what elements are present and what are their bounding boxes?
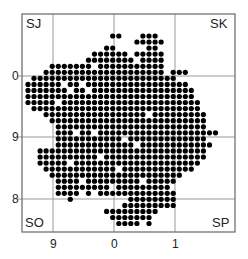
record-dot [31,100,36,105]
record-dot [110,130,115,135]
record-dot [86,118,91,123]
distribution-map: SJ SK SO SP 0 9 8 9 0 1 [0,0,248,259]
record-dot [153,179,158,184]
record-dot [38,94,43,99]
record-dot [177,100,182,105]
record-dot [146,46,151,51]
record-dot [165,88,170,93]
record-dot [38,100,43,105]
record-dot [159,82,164,87]
record-dot [98,142,103,147]
record-dot [159,39,164,44]
record-dot [134,70,139,75]
record-dot [116,88,121,93]
record-dot [171,167,176,172]
record-dot [128,130,133,135]
record-dot [153,88,158,93]
record-dot [177,173,182,178]
record-dot [159,154,164,159]
record-dot [122,167,127,172]
record-dot [171,203,176,208]
record-dot [128,88,133,93]
record-dot [104,142,109,147]
grid-square-label-so: SO [25,215,44,230]
record-dot [116,100,121,105]
record-dot [128,167,133,172]
record-dot [92,70,97,75]
record-dot [56,106,61,111]
record-dot [134,185,139,190]
record-dots [25,33,218,226]
record-dot [86,185,91,190]
record-dot [44,82,49,87]
record-dot [177,82,182,87]
record-dot [165,130,170,135]
record-dot [153,161,158,166]
record-dot [165,185,170,190]
record-dot [86,173,91,178]
record-dot [86,94,91,99]
record-dot [159,112,164,117]
record-dot [50,88,55,93]
record-dot [140,94,145,99]
record-dot [189,100,194,105]
record-dot [177,167,182,172]
record-dot [201,154,206,159]
record-dot [183,130,188,135]
record-dot [80,112,85,117]
record-dot [38,76,43,81]
record-dot [146,52,151,57]
record-dot [134,82,139,87]
record-dot [74,142,79,147]
record-dot [171,191,176,196]
record-dot [128,197,133,202]
record-dot [171,118,176,123]
record-dot [86,161,91,166]
record-dot [104,148,109,153]
record-dot [177,142,182,147]
record-dot [128,203,133,208]
record-dot [25,94,30,99]
record-dot [44,112,49,117]
record-dot [50,112,55,117]
record-dot [116,52,121,57]
record-dot [122,100,127,105]
record-dot [122,88,127,93]
record-dot [74,112,79,117]
record-dot [38,154,43,159]
record-dot [92,185,97,190]
record-dot [74,124,79,129]
record-dot [62,154,67,159]
record-dot [122,94,127,99]
record-dot [183,154,188,159]
record-dot [122,58,127,63]
record-dot [86,191,91,196]
record-dot [189,161,194,166]
record-dot [183,70,188,75]
record-dot [171,70,176,75]
record-dot [56,130,61,135]
record-dot [56,70,61,75]
record-dot [110,76,115,81]
record-dot [189,94,194,99]
record-dot [165,191,170,196]
record-dot [116,124,121,129]
record-dot [159,173,164,178]
record-dot [140,130,145,135]
record-dot [171,130,176,135]
record-dot [189,148,194,153]
record-dot [171,100,176,105]
record-dot [74,154,79,159]
record-dot [86,136,91,141]
record-dot [183,136,188,141]
record-dot [122,179,127,184]
record-dot [189,118,194,123]
record-dot [159,197,164,202]
record-dot [140,52,145,57]
record-dot [134,76,139,81]
record-dot [177,106,182,111]
record-dot [128,154,133,159]
record-dot [183,148,188,153]
x-axis-label-9: 9 [50,237,57,251]
record-dot [86,106,91,111]
